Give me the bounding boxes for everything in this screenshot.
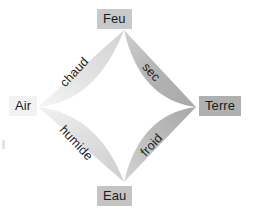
node-label-air: Air: [9, 96, 37, 116]
edge-artifact: [2, 140, 5, 149]
node-label-feu: Feu: [97, 9, 132, 29]
node-label-terre: Terre: [199, 96, 241, 116]
petal-sec: [124, 30, 196, 107]
node-label-eau: Eau: [97, 186, 132, 206]
four-elements-diagram: Feu Terre Eau Air chaud sec froid humide: [0, 0, 254, 213]
